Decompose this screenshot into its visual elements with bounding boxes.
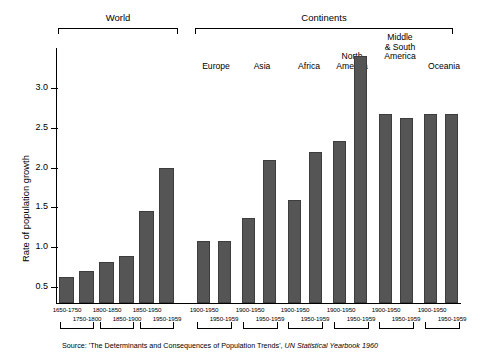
y-tick-1-0 [51, 247, 58, 248]
continent-label-middle-south-america: Middle & South America [374, 33, 426, 62]
x-label-europe-1900-1950: 1900-1950 [180, 306, 228, 313]
source-note: Source: 'The Determinants and Consequenc… [62, 341, 378, 350]
bar-middle-south-america-1950-1959 [400, 118, 413, 303]
period-bracket-north-america [334, 322, 369, 329]
continent-label-europe: Europe [193, 62, 239, 72]
bar-world-1900-1950 [139, 211, 154, 303]
x-label-north-america-1950-1959: 1950-1959 [337, 315, 385, 322]
x-label-asia-1900-1950: 1900-1950 [226, 306, 274, 313]
bar-world-1750-1800 [79, 271, 94, 303]
chart-canvas: World Continents Europe Asia Africa Nort… [0, 0, 480, 360]
bar-europe-1900-1950 [197, 241, 210, 303]
bar-asia-1950-1959 [263, 160, 276, 303]
x-label-asia-1950-1959: 1950-1959 [246, 315, 294, 322]
period-bracket-world-3 [140, 322, 174, 329]
y-tick-0-5 [51, 287, 58, 288]
y-axis-line [56, 48, 57, 303]
x-label-africa-1950-1959: 1950-1959 [291, 315, 339, 322]
bar-oceania-1950-1959 [445, 114, 458, 303]
continent-label-north-america: North America [327, 52, 377, 71]
y-tick-label-0-5: 0.5 [22, 281, 48, 291]
y-tick-label-2-0: 2.0 [22, 162, 48, 172]
period-bracket-middle-south-america [379, 322, 414, 329]
source-quote: 'The Determinants and Consequences of Po… [89, 341, 283, 350]
period-bracket-africa [288, 322, 323, 329]
x-axis-baseline [56, 303, 461, 304]
bar-middle-south-america-1900-1950 [379, 114, 392, 303]
x-label-middle-south-america-1900-1950: 1900-1950 [362, 306, 410, 313]
bar-africa-1950-1959 [309, 152, 322, 303]
source-prefix: Source: [62, 341, 87, 350]
bar-north-america-1950-1959 [354, 56, 367, 303]
y-tick-3-0 [51, 88, 58, 89]
x-label-north-america-1900-1950: 1900-1950 [317, 306, 365, 313]
x-label-oceania-1950-1959: 1950-1959 [428, 315, 476, 322]
y-tick-label-1-5: 1.5 [22, 201, 48, 211]
bar-world-1800-1850 [99, 262, 114, 303]
group-bracket-world [58, 28, 178, 34]
x-label-world-1950-1959: 1950-1959 [143, 315, 191, 322]
period-bracket-asia [243, 322, 278, 329]
continent-label-oceania: Oceania [420, 62, 468, 72]
bar-world-1850-1900 [119, 256, 134, 303]
y-tick-1-5 [51, 207, 58, 208]
period-bracket-europe [197, 322, 232, 329]
source-italic: UN Statistical Yearbook 1960 [285, 341, 378, 350]
bar-world-1650-1750 [59, 277, 74, 303]
period-bracket-oceania [425, 322, 460, 329]
x-label-europe-1950-1959: 1950-1959 [200, 315, 248, 322]
group-title-continents: Continents [195, 12, 453, 23]
x-label-middle-south-america-1950-1959: 1950-1959 [382, 315, 430, 322]
y-tick-label-2-5: 2.5 [22, 122, 48, 132]
bar-oceania-1900-1950 [424, 114, 437, 303]
continent-label-asia: Asia [239, 62, 285, 72]
x-label-oceania-1900-1950: 1900-1950 [408, 306, 456, 313]
x-label-world-1850-1950: 1850-1950 [123, 306, 171, 313]
y-tick-2-0 [51, 168, 58, 169]
y-tick-label-3-0: 3.0 [22, 82, 48, 92]
y-tick-label-1-0: 1.0 [22, 241, 48, 251]
y-tick-2-5 [51, 128, 58, 129]
bar-africa-1900-1950 [288, 200, 301, 303]
bar-europe-1950-1959 [218, 241, 231, 303]
bar-north-america-1900-1950 [333, 141, 346, 303]
bar-world-1950-1959 [159, 168, 174, 303]
period-bracket-world-2 [100, 322, 134, 329]
bar-asia-1900-1950 [242, 218, 255, 303]
x-label-africa-1900-1950: 1900-1950 [271, 306, 319, 313]
period-bracket-world-1 [60, 322, 94, 329]
continent-label-africa: Africa [286, 62, 332, 72]
group-title-world: World [58, 12, 178, 23]
